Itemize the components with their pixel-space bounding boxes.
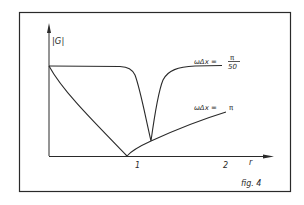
svg-text:π: π [229, 104, 234, 112]
label-pi: ωΔx = π [194, 104, 234, 112]
figure-caption: fig. 4 [241, 179, 261, 188]
y-axis-label: |G| [52, 36, 64, 46]
svg-text:π: π [230, 54, 235, 62]
label-pi-over-50: ωΔx = π 50 [194, 54, 240, 71]
x-axis-label: r [249, 158, 253, 167]
y-axis [47, 23, 51, 156]
x-axis-arrow-icon [263, 155, 274, 159]
y-axis-arrow-icon [47, 23, 51, 33]
svg-text:ωΔx =: ωΔx = [194, 58, 217, 66]
x-axis [49, 155, 274, 159]
svg-text:50: 50 [228, 63, 237, 71]
figure-4: |G| 1 2 r ωΔx = π 50 ωΔx = π fig. 4 [0, 0, 304, 205]
x-tick-2: 2 [223, 161, 228, 170]
x-tick-1: 1 [135, 161, 140, 170]
svg-text:ωΔx =: ωΔx = [194, 104, 217, 112]
